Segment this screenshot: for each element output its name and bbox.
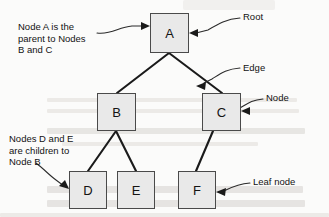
arrowhead-to-d [59,180,69,189]
leader-root [196,18,240,33]
arrowhead-to-f [216,188,226,196]
tree-node-c-label: C [217,106,226,119]
label-root: Root [243,11,263,23]
tree-node-a-label: A [165,27,174,40]
label-edge: Edge [243,62,265,74]
tree-node-f[interactable]: F [178,171,216,209]
tree-node-a[interactable]: A [150,13,189,53]
tree-node-b[interactable]: B [97,93,136,131]
tree-node-e-label: E [132,184,141,197]
arrowhead-to-c [241,107,250,115]
arrowhead-to-a-left [141,22,150,30]
leader-parent-note [97,26,146,33]
edge-a-b [117,53,169,93]
tree-node-c[interactable]: C [202,93,241,131]
arrowhead-to-a-right [189,29,198,37]
leader-edge [204,68,240,83]
edge-c-f [196,131,213,171]
label-node: Node [266,92,289,104]
edge-a-c [169,53,222,93]
tree-node-d[interactable]: D [69,171,107,209]
tree-node-f-label: F [193,184,201,197]
annotation-parent-note: Node A is the parent to Nodes B and C [18,21,86,56]
edge-b-e [116,131,136,171]
tree-node-b-label: B [112,106,121,119]
label-leaf-node: Leaf node [253,176,295,188]
edge-b-d [88,131,116,171]
tree-node-e[interactable]: E [117,171,155,209]
tree-diagram-figure: A B C D E F Node A is the parent to Node… [0,0,329,217]
annotation-children-note: Nodes D and E are children to Node B [9,133,73,168]
tree-node-d-label: D [83,184,92,197]
arrowhead-to-edge [196,82,206,90]
